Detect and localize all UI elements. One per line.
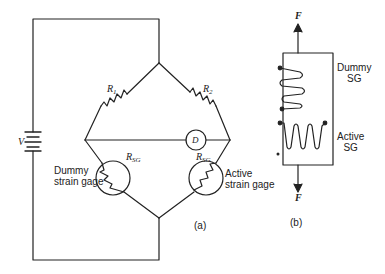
r1-label: R1 [107,83,117,98]
force-bottom-label: F [295,192,302,203]
active-sg-label: Active SG [337,131,364,153]
resistor-r1 [85,63,159,140]
voltage-source-label: V [18,136,24,147]
rsg-active-label: RSG [196,151,211,166]
active-strain-gage-label: Active strain gage [225,168,274,190]
panel-a-caption: (a) [194,220,206,231]
battery-icon [25,132,41,151]
detector-label: D [192,135,199,146]
panel-b-caption: (b) [290,217,302,228]
dummy-sg-label: Dummy SG [337,62,371,84]
resistor-r2 [159,63,230,140]
active-strain-gage-symbol [159,140,230,218]
dummy-sg-grid [278,66,304,111]
active-sg-grid [277,121,327,155]
dummy-strain-gage-label: Dummy strain gage [54,165,103,187]
force-top-label: F [295,10,302,21]
rsg-dummy-label: RSG [126,151,141,166]
r2-label: R2 [203,83,213,98]
detector [85,130,230,150]
